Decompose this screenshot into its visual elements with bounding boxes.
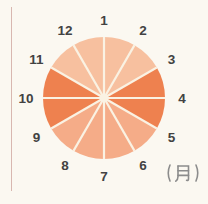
month-label-7: 7 bbox=[100, 169, 108, 184]
unit-label: (月) bbox=[163, 162, 203, 186]
month-label-11: 11 bbox=[29, 52, 44, 67]
tsuki-frame-stroke bbox=[178, 166, 189, 180]
center-dot bbox=[100, 94, 108, 102]
month-label-5: 5 bbox=[168, 130, 176, 145]
month-label-8: 8 bbox=[61, 158, 69, 173]
month-label-1: 1 bbox=[100, 13, 108, 28]
month-label-4: 4 bbox=[178, 91, 186, 106]
month-label-2: 2 bbox=[139, 23, 147, 38]
paren-close-glyph bbox=[196, 165, 198, 181]
month-label-9: 9 bbox=[33, 130, 41, 145]
month-label-6: 6 bbox=[139, 158, 147, 173]
month-label-3: 3 bbox=[168, 52, 176, 67]
month-unit-glyph bbox=[163, 162, 203, 186]
tsuki-left-stroke bbox=[176, 166, 178, 181]
paren-open-glyph bbox=[168, 165, 170, 181]
month-clock-figure: 123456789101112 (月) bbox=[0, 0, 208, 204]
month-label-10: 10 bbox=[18, 91, 33, 106]
month-label-12: 12 bbox=[57, 23, 72, 38]
